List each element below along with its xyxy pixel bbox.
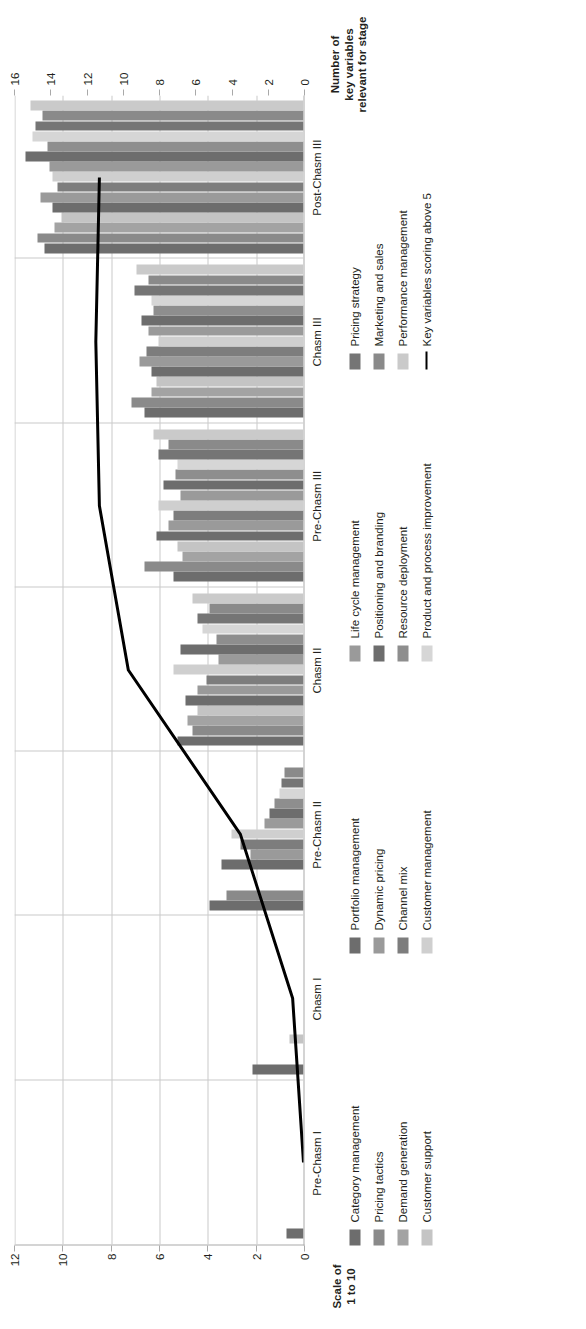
category-label-chasm-iii: Chasm III [310,317,322,366]
plot-inner [14,95,303,1244]
legend-item[interactable]: Customer support [414,955,438,1245]
secondary-axis-tick-mark [195,89,196,95]
legend-color-swatch-icon [349,937,360,953]
legend-item[interactable]: Product and process improvement [414,371,438,661]
bar [177,541,303,551]
primary-axis-tick-mark [304,1245,305,1251]
legend-item[interactable]: Marketing and sales [366,79,390,369]
legend-item[interactable]: Customer management [414,663,438,953]
bar [182,551,303,561]
bar [148,275,303,285]
legend-item[interactable]: Channel mix [390,663,414,953]
legend-item[interactable]: Performance management [390,79,414,369]
bar [52,171,303,181]
legend-item[interactable]: Pricing tactics [366,955,390,1245]
legend-item[interactable]: Portfolio management [342,663,366,953]
legend-color-swatch-icon [349,645,360,661]
secondary-axis-tick-label: 16 [8,72,20,85]
bar [136,264,303,274]
legend-color-swatch-icon [349,353,360,369]
bar [151,295,303,305]
bar [37,233,303,243]
bar [173,571,304,581]
legend-color-swatch-icon [397,353,408,369]
bar [35,121,303,131]
category-label-chasm-i: Chasm I [310,977,322,1020]
bar [216,634,303,644]
legend-item[interactable]: Key variables scoring above 5 [414,79,438,369]
category-label-pre-chasm-i: Pre-Chasm I [310,1131,322,1196]
primary-value-axis: 024681012 [14,1245,304,1329]
bar [141,315,303,325]
primary-axis-tick-mark [207,1245,208,1251]
legend-item-label: Key variables scoring above 5 [420,193,432,346]
bar [134,285,303,295]
legend-color-swatch-icon [373,937,384,953]
primary-axis-tick-label: 8 [105,1253,117,1259]
bar [25,151,303,161]
legend-item[interactable]: Life cycle management [342,371,366,661]
primary-axis-tick-label: 0 [298,1253,310,1259]
legend-item[interactable]: Dynamic pricing [366,663,390,953]
primary-axis-title: Scale of1 to 10 [330,1249,357,1323]
secondary-axis-tick-mark [304,89,305,95]
bar [192,725,303,735]
bar [144,407,304,417]
category-label-pre-chasm-ii: Pre-Chasm II [310,800,322,868]
bar [153,429,303,439]
legend-color-swatch-icon [349,1229,360,1245]
chart-canvas: 024681012 Scale of1 to 10 0246810121416 … [0,0,586,1329]
category-label-pre-chasm-iii: Pre-Chasm III [310,470,322,541]
bar [221,859,303,869]
bar [284,768,303,778]
primary-axis-tick-mark [255,1245,256,1251]
bar [151,366,303,376]
category-axis-labels: Pre-Chasm IChasm IPre-Chasm IIChasm IIPr… [310,95,332,1245]
plot-area [14,95,304,1245]
primary-axis-title-line: Scale of [330,1249,344,1323]
bar [286,1228,303,1238]
bar [158,336,303,346]
bar-group [14,915,303,1079]
primary-axis-tick-label: 12 [8,1253,20,1266]
legend-item[interactable]: Pricing strategy [342,79,366,369]
bar [144,561,304,571]
bar [185,695,303,705]
bar-group [14,95,303,258]
primary-axis-tick-label: 2 [250,1253,262,1259]
bar [180,490,303,500]
primary-axis-tick-label: 10 [56,1253,68,1266]
secondary-axis-tick-label: 0 [298,79,310,85]
legend-item[interactable]: Category management [342,955,366,1245]
rotated-chart-frame: 024681012 Scale of1 to 10 0246810121416 … [0,0,586,1329]
legend-color-swatch-icon [421,645,432,661]
bar [269,808,303,818]
legend-item-label: Product and process improvement [420,463,432,638]
legend-item[interactable]: Positioning and branding [366,371,390,661]
secondary-axis-tick-mark [267,89,268,95]
secondary-axis-tick-mark [86,89,87,95]
bar [163,480,303,490]
secondary-axis-tick-label: 6 [189,79,201,85]
legend-column: Portfolio managementDynamic pricingChann… [342,663,438,953]
bar-group [14,587,303,751]
bar [264,818,303,828]
legend-color-swatch-icon [421,1229,432,1245]
bar [61,212,303,222]
legend-item[interactable]: Demand generation [390,955,414,1245]
secondary-axis-tick-mark [50,89,51,95]
secondary-value-axis: 0246810121416 [14,0,304,95]
secondary-axis-tick-mark [14,89,15,95]
legend-item[interactable]: Resource deployment [390,371,414,661]
bar [151,387,303,397]
secondary-axis-tick-mark [159,89,160,95]
bar [44,243,303,253]
legend-item-label: Customer management [420,810,432,930]
secondary-axis-tick-mark [231,89,232,95]
secondary-axis-tick-label: 8 [153,79,165,85]
bar [279,788,303,798]
bar [197,613,303,623]
secondary-axis-tick-mark [122,89,123,95]
bar [156,531,303,541]
bar [177,459,303,469]
